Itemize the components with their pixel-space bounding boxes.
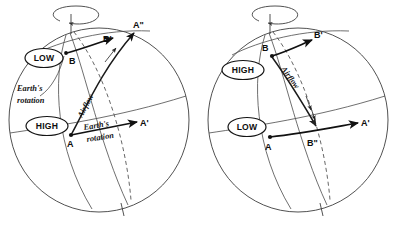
low-label-right: LOW <box>237 122 258 132</box>
point-a-dot-left <box>69 133 73 137</box>
diagram-canvas: LOW HIGH B B' A A' A" Earth's rotation E… <box>0 0 400 226</box>
point-b-dot-right <box>270 54 274 58</box>
earths-rotation-upper-line2-left: rotation <box>17 96 45 105</box>
left-globe: LOW HIGH B B' A A' A" Earth's rotation E… <box>9 6 189 216</box>
point-b-label-left: B <box>69 56 76 66</box>
low-label-left: LOW <box>34 53 55 63</box>
point-bprime-label-left: B' <box>103 34 112 44</box>
earths-rotation-lower-line2-left: rotation <box>86 131 115 144</box>
coriolis-diagram-figure: LOW HIGH B B' A A' A" Earth's rotation E… <box>0 0 400 226</box>
point-a-label-left: A <box>67 139 74 149</box>
point-bprime-label-right: B' <box>314 30 323 40</box>
airflow-mid-arrow-left <box>105 48 116 62</box>
airflow-mid-arrow1-right <box>306 96 311 110</box>
high-label-left: HIGH <box>36 121 58 131</box>
arrow-a-to-aprime-right <box>270 123 358 137</box>
point-a-dot-right <box>268 135 272 139</box>
point-b-label-right: B <box>262 43 269 53</box>
earths-rotation-upper-line1-left: Earth's <box>16 84 43 93</box>
point-b-dot-left <box>64 51 68 55</box>
airflow-label-right: Airflow <box>279 64 302 91</box>
rotation-arrow-right <box>252 6 297 24</box>
point-a-label-right: A <box>265 142 272 152</box>
point-bdprime-label-right: B" <box>307 138 318 148</box>
airflow-curve-right <box>272 57 316 126</box>
point-adprime-label-left: A" <box>133 20 144 30</box>
meridian-mid-right <box>269 33 327 205</box>
right-globe: HIGH LOW B B' A B" A' Airflow <box>208 6 388 216</box>
arrow-b-to-bprime-right <box>272 40 312 56</box>
high-label-right: HIGH <box>232 65 254 75</box>
rotation-arrow-left <box>53 6 98 24</box>
point-aprime-label-right: A' <box>361 118 370 128</box>
point-aprime-label-left: A' <box>140 118 149 128</box>
meridian-dashed-right <box>273 32 330 200</box>
